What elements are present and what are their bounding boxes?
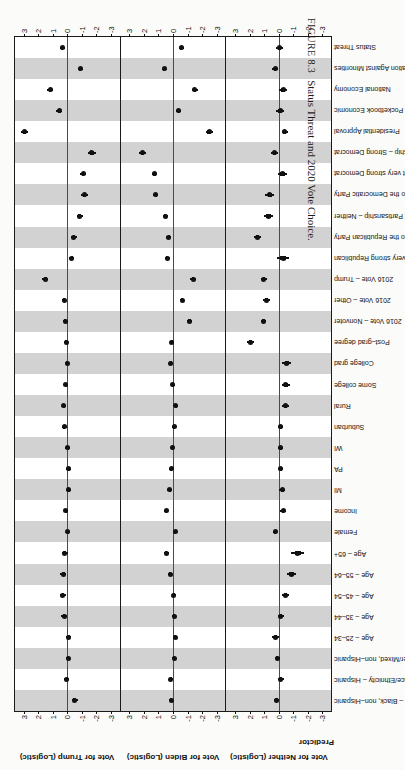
predictor-label: Pocketbook Economic xyxy=(334,106,403,113)
point-estimate-dot xyxy=(283,403,288,408)
point-estimate-dot xyxy=(278,108,283,113)
y-tick-mark xyxy=(82,34,83,37)
point-estimate-dot xyxy=(166,235,171,240)
y-tick-label: -3 xyxy=(318,715,327,722)
y-tick-label: -2 xyxy=(92,26,101,33)
estimate-marker xyxy=(121,353,226,374)
y-tick-mark xyxy=(129,34,130,37)
point-estimate-dot xyxy=(164,508,169,513)
y-tick-mark xyxy=(53,34,54,37)
point-estimate-dot xyxy=(280,487,285,492)
point-estimate-dot xyxy=(168,677,173,682)
point-estimate-dot xyxy=(273,66,278,71)
point-estimate-dot xyxy=(71,235,76,240)
predictor-label: Recruitment Partisanship – Neither xyxy=(334,212,405,219)
estimate-marker xyxy=(121,521,226,542)
point-estimate-dot xyxy=(172,424,177,429)
y-tick-label: 1 xyxy=(154,29,163,33)
estimate-marker xyxy=(121,79,226,100)
y-tick-label: 0 xyxy=(274,29,283,33)
predictor-label: Race/Ethnicity – Hispanic xyxy=(334,677,405,684)
point-estimate-dot xyxy=(66,487,71,492)
estimate-marker xyxy=(15,416,120,437)
predictor-label: MI xyxy=(334,487,342,494)
y-tick-mark xyxy=(250,711,251,714)
point-estimate-dot xyxy=(66,635,71,640)
point-estimate-dot xyxy=(65,361,70,366)
point-estimate-dot xyxy=(22,129,27,134)
predictor-label: Recruitment Partisanship – Closer to the… xyxy=(334,233,405,240)
y-tick-label: 2 xyxy=(139,29,148,33)
point-estimate-dot xyxy=(278,424,283,429)
estimate-marker xyxy=(15,395,120,416)
estimate-marker xyxy=(15,269,120,290)
estimate-marker xyxy=(121,100,226,121)
estimate-marker xyxy=(121,58,226,79)
point-estimate-dot xyxy=(168,572,173,577)
y-tick-label: 1 xyxy=(48,29,57,33)
point-estimate-dot xyxy=(65,445,70,450)
y-tick-mark xyxy=(144,711,145,714)
point-estimate-dot xyxy=(172,656,177,661)
y-tick-label: -2 xyxy=(198,26,207,33)
point-estimate-dot xyxy=(281,508,286,513)
y-tick-mark xyxy=(24,711,25,714)
point-estimate-dot xyxy=(167,487,172,492)
estimate-marker xyxy=(15,100,120,121)
estimate-marker xyxy=(15,479,120,500)
point-estimate-dot xyxy=(65,529,70,534)
rotated-figure-wrapper: -3-2-10123-3-2-10123Vote for Trump (Logi… xyxy=(0,0,405,770)
y-axis-right-biden: -3-2-10123 xyxy=(121,11,226,37)
predictor-label: Recruitment Partisanship – Closer to the… xyxy=(334,191,405,198)
predictor-label: Income xyxy=(334,508,357,515)
y-tick-mark xyxy=(96,34,97,37)
point-estimate-dot xyxy=(62,298,67,303)
y-tick-label: 1 xyxy=(154,715,163,719)
estimate-marker xyxy=(15,585,120,606)
estimate-marker xyxy=(15,248,120,269)
y-tick-label: -3 xyxy=(318,26,327,33)
y-tick-mark xyxy=(188,34,189,37)
estimate-marker xyxy=(15,437,120,458)
y-tick-mark xyxy=(82,711,83,714)
point-estimate-dot xyxy=(48,87,53,92)
point-estimate-dot xyxy=(171,593,176,598)
estimate-marker xyxy=(15,332,120,353)
point-estimate-dot xyxy=(60,45,65,50)
y-tick-label: 0 xyxy=(169,715,178,719)
estimate-marker xyxy=(121,669,226,690)
estimate-marker xyxy=(15,374,120,395)
predictor-label: 2016 Vote – Trump xyxy=(334,275,393,282)
point-estimate-dot xyxy=(69,256,74,261)
point-estimate-dot xyxy=(272,150,277,155)
estimate-marker xyxy=(121,395,226,416)
y-axis-left-biden: -3-2-10123 xyxy=(121,711,226,737)
y-tick-mark xyxy=(264,34,265,37)
y-tick-label: -3 xyxy=(212,26,221,33)
estimate-marker xyxy=(15,206,120,227)
y-tick-label: -2 xyxy=(198,715,207,722)
point-estimate-dot xyxy=(187,319,192,324)
y-tick-mark xyxy=(144,34,145,37)
y-tick-mark xyxy=(322,34,323,37)
estimate-marker xyxy=(121,648,226,669)
estimate-marker xyxy=(121,184,226,205)
point-estimate-dot xyxy=(162,66,167,71)
estimate-marker xyxy=(15,669,120,690)
point-estimate-dot xyxy=(274,698,279,703)
point-estimate-dot xyxy=(63,382,68,387)
panel-biden: -3-2-10123-3-2-10123Vote for Biden (Logi… xyxy=(120,36,226,712)
point-estimate-dot xyxy=(61,572,66,577)
y-tick-label: -3 xyxy=(212,715,221,722)
panel-stack: -3-2-10123-3-2-10123Vote for Trump (Logi… xyxy=(14,36,332,712)
y-tick-label: 2 xyxy=(34,715,43,719)
point-estimate-dot xyxy=(278,466,283,471)
estimate-marker xyxy=(15,458,120,479)
point-estimate-dot xyxy=(64,340,69,345)
y-tick-mark xyxy=(217,34,218,37)
point-estimate-dot xyxy=(176,108,181,113)
x-axis-title: Predictor xyxy=(299,738,334,747)
predictor-label: National Economy xyxy=(334,85,391,92)
estimate-marker xyxy=(15,142,120,163)
point-estimate-dot xyxy=(170,382,175,387)
